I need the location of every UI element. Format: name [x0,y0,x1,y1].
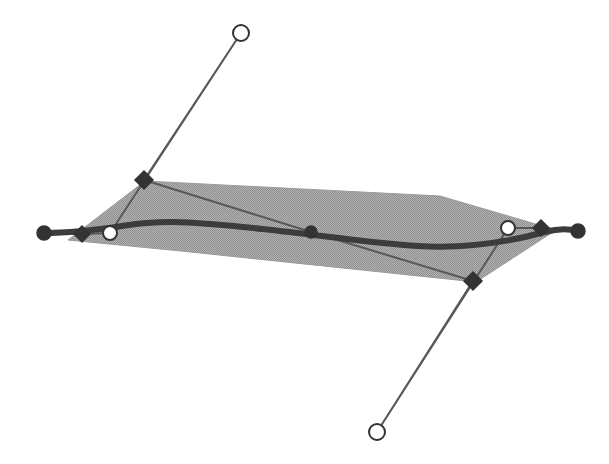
figure-canvas: Spline curve with control polygon and sh… [0,0,609,464]
spline-diagram-svg [0,0,609,464]
control-point-p10 [571,224,585,238]
control-point-p3 [233,25,249,41]
control-point-p0 [37,226,51,240]
control-point-p2 [103,226,117,240]
control-point-p7 [369,424,385,440]
control-point-p8 [501,221,515,235]
control-point-p5 [305,226,317,238]
